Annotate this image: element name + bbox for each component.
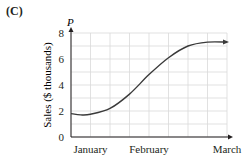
y-axis-symbol: P	[66, 16, 74, 28]
svg-text:0: 0	[59, 131, 65, 143]
y-tick-labels: 02468	[59, 27, 65, 143]
x-tick-labels: JanuaryFebruaryMarch	[73, 143, 241, 155]
svg-text:4: 4	[59, 79, 65, 91]
axes	[69, 27, 234, 140]
svg-text:February: February	[129, 143, 169, 155]
y-axis-label: Sales ($ thousands)	[41, 42, 54, 128]
sales-chart: 02468 JanuaryFebruaryMarch P Sales ($ th…	[0, 0, 243, 160]
svg-text:March: March	[213, 143, 242, 155]
svg-text:8: 8	[59, 27, 65, 39]
curve-arrowhead	[223, 40, 229, 45]
svg-text:2: 2	[59, 105, 65, 117]
grid	[71, 33, 227, 137]
svg-text:January: January	[73, 143, 108, 155]
svg-text:6: 6	[59, 53, 65, 65]
